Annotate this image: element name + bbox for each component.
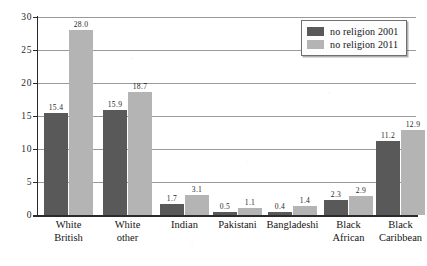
y-axis-tick-label: 10 [4,144,32,154]
x-axis-category-label: BlackCaribbean [355,219,427,244]
legend-swatch-2011 [307,40,324,49]
bar-2001: 11.2 [376,141,400,215]
bar-value-label: 1.4 [300,196,310,205]
legend-item-2011: no religion 2011 [307,38,399,51]
y-axis-tick-label: 15 [4,111,32,121]
bar-2001: 1.7 [160,204,184,215]
bar-2011: 1.4 [293,206,317,215]
y-axis-tick-label: 25 [4,45,32,55]
legend-item-2001: no religion 2001 [307,25,399,38]
bar-2001: 15.4 [44,113,68,215]
x-axis-line [33,215,418,217]
bar-value-label: 2.3 [331,190,341,199]
gridline [37,116,416,117]
y-axis-tick-label: 30 [4,12,32,22]
bar-value-label: 1.1 [245,198,255,207]
bar-value-label: 15.9 [108,100,123,109]
legend-label-2011: no religion 2011 [330,39,398,50]
bar-value-label: 11.2 [381,131,395,140]
y-axis-tick-label: 5 [4,177,32,187]
bar-value-label: 2.9 [356,186,366,195]
bar-value-label: 1.7 [167,194,177,203]
gridline [37,182,416,183]
gridline [37,83,416,84]
chart-legend: no religion 2001 no religion 2011 [301,20,407,56]
bar-2011: 28.0 [69,30,93,215]
legend-swatch-2001 [307,27,324,36]
bar-chart-figure: 15.428.015.918.71.73.10.51.10.41.42.32.9… [0,0,427,266]
gridline [37,17,416,18]
gridline [37,149,416,150]
bar-value-label: 0.5 [220,202,230,211]
legend-label-2001: no religion 2001 [330,26,399,37]
bar-2011: 12.9 [401,130,425,215]
y-axis-line [37,16,38,216]
bar-value-label: 18.7 [133,82,148,91]
bar-2001: 2.3 [324,200,348,215]
bar-value-label: 3.1 [192,185,202,194]
bar-2011: 18.7 [128,92,152,215]
bar-value-label: 0.4 [275,202,285,211]
bar-value-label: 12.9 [406,120,421,129]
bar-2011: 3.1 [185,195,209,215]
bar-2011: 2.9 [349,196,373,215]
bar-2001: 15.9 [103,110,127,215]
bar-value-label: 15.4 [49,103,64,112]
bar-value-label: 28.0 [74,20,89,29]
bar-2011: 1.1 [238,208,262,215]
y-axis-tick-label: 20 [4,78,32,88]
